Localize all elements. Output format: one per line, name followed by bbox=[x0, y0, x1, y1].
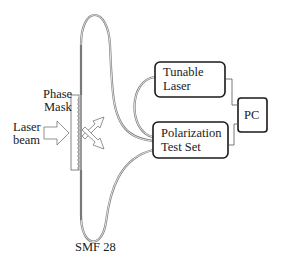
laser-beam-arrow bbox=[44, 121, 69, 145]
pc-label: PC bbox=[244, 108, 259, 122]
laser-beam-label-2: beam bbox=[13, 133, 40, 147]
tunable-laser-box: Tunable Laser bbox=[155, 62, 225, 97]
pc-box: PC bbox=[238, 98, 267, 132]
phase-mask bbox=[71, 95, 79, 170]
polarization-label-2: Test Set bbox=[161, 140, 201, 154]
fiber-label: SMF 28 bbox=[75, 240, 116, 254]
tunable-laser-label-1: Tunable bbox=[163, 65, 204, 79]
diffracted-beam-arrows bbox=[82, 117, 104, 149]
polarization-test-set-box: Polarization Test Set bbox=[153, 122, 228, 158]
polarization-label-1: Polarization bbox=[161, 126, 222, 140]
tunable-laser-label-2: Laser bbox=[163, 79, 192, 93]
phase-mask-label-1: Phase bbox=[43, 87, 73, 101]
laser-beam-label-1: Laser bbox=[13, 120, 42, 134]
phase-mask-label-2: Mask bbox=[44, 100, 73, 114]
setup-diagram: Tunable Laser Polarization Test Set PC P… bbox=[0, 0, 284, 258]
